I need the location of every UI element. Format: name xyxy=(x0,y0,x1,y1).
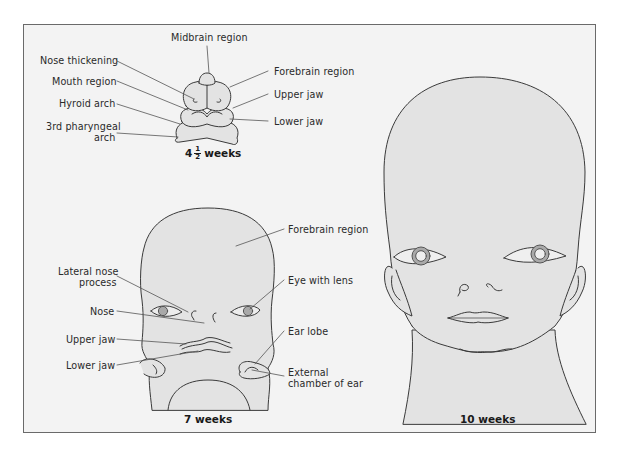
label-midbrain-region: Midbrain region xyxy=(171,32,248,43)
fraction-denominator: 2 xyxy=(194,154,201,161)
label-upper-jaw-7: Upper jaw xyxy=(66,334,115,345)
label-nose-thickening: Nose thickening xyxy=(40,55,118,66)
embryo-7-weeks xyxy=(140,208,274,410)
fetus-10-weeks xyxy=(384,77,586,424)
caption-7-weeks: 7 weeks xyxy=(184,413,232,425)
label-lower-jaw-4-5: Lower jaw xyxy=(274,116,323,127)
label-nose: Nose xyxy=(90,306,114,317)
label-lower-jaw-7: Lower jaw xyxy=(66,360,115,371)
label-external: External xyxy=(288,367,329,378)
label-forebrain-region-4-5: Forebrain region xyxy=(274,66,354,77)
label-forebrain-region-7: Forebrain region xyxy=(288,224,368,235)
label-eye-with-lens: Eye with lens xyxy=(288,275,353,286)
caption-whole: 4 xyxy=(185,147,192,159)
caption-unit: weeks xyxy=(204,147,241,159)
caption-10-weeks: 10 weeks xyxy=(460,413,515,425)
label-upper-jaw-4-5: Upper jaw xyxy=(274,89,323,100)
label-3rd-pharyngeal: 3rd pharyngeal xyxy=(46,121,121,132)
caption-4-5-weeks: 412weeks xyxy=(185,146,241,161)
label-lateral-nose: Lateral nose xyxy=(58,266,118,277)
label-ear-lobe: Ear lobe xyxy=(288,326,328,337)
label-hyroid-arch: Hyroid arch xyxy=(59,98,115,109)
caption-fraction: 12 xyxy=(194,146,201,161)
label-arch: arch xyxy=(94,132,115,143)
label-chamber-of-ear: chamber of ear xyxy=(288,378,363,389)
label-process: process xyxy=(79,277,117,288)
label-mouth-region: Mouth region xyxy=(52,76,117,87)
